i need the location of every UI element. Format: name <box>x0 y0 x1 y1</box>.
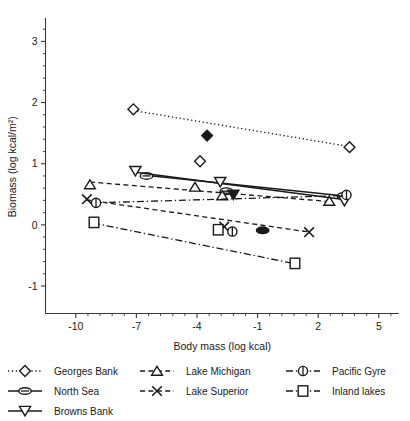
legend-label: Georges Bank <box>54 366 119 377</box>
x-tick-label: -1 <box>253 320 262 332</box>
y-tick-label: 1 <box>32 157 38 169</box>
y-axis-title: Biomass (log kcal/m²) <box>6 116 18 217</box>
legend-item-georges-bank[interactable]: Georges Bank <box>8 366 119 377</box>
legend-label: Pacific Gyre <box>332 366 386 377</box>
x-axis-title: Body mass (log kcal) <box>174 340 271 352</box>
data-point-circle-bar <box>298 366 307 375</box>
legend-label: Lake Michigan <box>186 366 250 377</box>
y-tick-label: 0 <box>32 219 38 231</box>
data-point-ellipse <box>256 227 268 234</box>
y-tick-label: 2 <box>32 96 38 108</box>
y-tick-label: 3 <box>32 35 38 47</box>
data-point-circle-bar <box>228 227 237 236</box>
data-point-ellipse <box>19 388 31 395</box>
x-tick-label: -10 <box>68 320 83 332</box>
x-tick-label: -4 <box>192 320 201 332</box>
data-point-square <box>290 258 300 268</box>
data-point-square <box>298 386 308 396</box>
x-tick-label: 5 <box>376 320 382 332</box>
figure-background <box>0 0 410 421</box>
legend-label: Lake Superior <box>186 386 249 397</box>
legend-item-inland-lakes[interactable]: Inland lakes <box>286 386 385 397</box>
x-tick-label: -7 <box>132 320 141 332</box>
data-point-circle-bar <box>91 198 100 207</box>
chart-figure: -10-7-4-125-10123 Body mass (log kcal)Bi… <box>0 0 410 421</box>
x-tick-label: 2 <box>315 320 321 332</box>
data-point-square <box>213 225 223 235</box>
legend-item-lake-michigan[interactable]: Lake Michigan <box>140 366 250 377</box>
y-tick-label: -1 <box>28 280 37 292</box>
legend-label: Browns Bank <box>54 406 114 417</box>
legend-label: North Sea <box>54 386 99 397</box>
legend-label: Inland lakes <box>332 386 385 397</box>
data-point-circle-bar <box>342 190 351 199</box>
legend-item-pacific-gyre[interactable]: Pacific Gyre <box>286 366 386 377</box>
data-point-square <box>89 217 99 227</box>
legend-item-browns-bank[interactable]: Browns Bank <box>8 406 114 417</box>
